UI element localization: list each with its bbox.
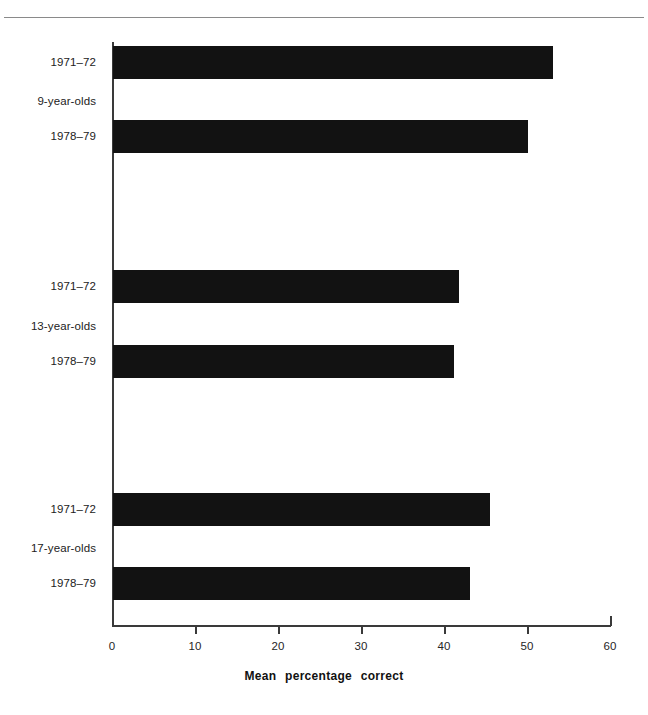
x-tick-10 <box>195 625 197 634</box>
bar-chart: 0 10 20 30 40 50 60 1971–72 9-year-olds … <box>0 0 648 715</box>
group-label-17-year-olds: 17-year-olds <box>31 542 96 554</box>
x-tick-50 <box>527 625 529 634</box>
x-axis-title: Mean percentage correct <box>0 669 648 683</box>
bar-13yo-1978-79 <box>113 345 454 378</box>
x-tick-label-0: 0 <box>109 640 116 652</box>
bar-label-13yo-1971-72: 1971–72 <box>51 280 96 292</box>
group-label-13-year-olds: 13-year-olds <box>31 320 96 332</box>
bar-9yo-1971-72 <box>113 46 553 79</box>
x-tick-label-20: 20 <box>271 640 284 652</box>
x-tick-40 <box>444 625 446 634</box>
bar-label-17yo-1971-72: 1971–72 <box>51 503 96 515</box>
bar-label-17yo-1978-79: 1978–79 <box>51 577 96 589</box>
x-tick-label-40: 40 <box>437 640 450 652</box>
group-label-9-year-olds: 9-year-olds <box>37 95 96 107</box>
bar-label-9yo-1978-79: 1978–79 <box>51 130 96 142</box>
figure-canvas: 0 10 20 30 40 50 60 1971–72 9-year-olds … <box>0 0 648 715</box>
bar-13yo-1971-72 <box>113 270 459 303</box>
bar-label-9yo-1971-72: 1971–72 <box>51 56 96 68</box>
x-tick-30 <box>361 625 363 634</box>
x-tick-label-50: 50 <box>520 640 533 652</box>
x-tick-20 <box>278 625 280 634</box>
x-tick-label-30: 30 <box>354 640 367 652</box>
x-tick-60 <box>610 616 612 626</box>
x-tick-label-60: 60 <box>603 640 616 652</box>
bar-17yo-1971-72 <box>113 493 490 526</box>
x-tick-label-10: 10 <box>188 640 201 652</box>
bar-17yo-1978-79 <box>113 567 470 600</box>
bar-9yo-1978-79 <box>113 120 528 153</box>
x-tick-0 <box>112 616 114 626</box>
bar-label-13yo-1978-79: 1978–79 <box>51 355 96 367</box>
